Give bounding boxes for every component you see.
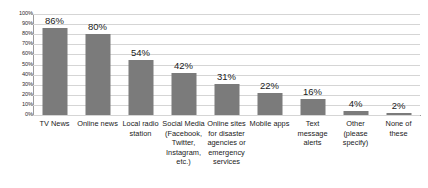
y-axis: 100%90%80%70%60%50%40%30%20%10%0%	[0, 14, 33, 115]
y-axis-tick-label: 50%	[3, 62, 33, 68]
bar-slot: 16%	[291, 14, 334, 115]
bar-value-label: 2%	[392, 101, 406, 111]
y-axis-tick-label: 70%	[3, 42, 33, 48]
x-axis-category-label: Local radio station	[119, 119, 162, 138]
x-axis-category-label: None of these	[377, 119, 420, 138]
y-axis-tick-label: 60%	[3, 52, 33, 58]
bar[interactable]	[171, 73, 196, 115]
x-axis-category-label: Online news	[76, 119, 119, 129]
bar-value-label: 80%	[88, 22, 107, 32]
bar-chart: 100%90%80%70%60%50%40%30%20%10%0% 86%80%…	[0, 0, 428, 188]
plot-area: 86%80%54%42%31%22%16%4%2%	[33, 14, 420, 115]
bar[interactable]	[300, 99, 325, 115]
bar[interactable]	[386, 113, 411, 115]
bar-slot: 80%	[76, 14, 119, 115]
bar-slot: 2%	[377, 14, 420, 115]
bars: 86%80%54%42%31%22%16%4%2%	[33, 14, 420, 115]
y-axis-tick-label: 10%	[3, 102, 33, 108]
y-axis-tick-label: 80%	[3, 31, 33, 37]
bar-slot: 4%	[334, 14, 377, 115]
x-axis-category-label: Mobile apps	[248, 119, 291, 129]
bar[interactable]	[42, 28, 67, 115]
x-axis-categories: TV NewsOnline newsLocal radio stationSoc…	[33, 119, 420, 187]
bar-slot: 22%	[248, 14, 291, 115]
bar-slot: 31%	[205, 14, 248, 115]
bar[interactable]	[128, 60, 153, 115]
bar-slot: 54%	[119, 14, 162, 115]
bar-slot: 86%	[33, 14, 76, 115]
x-axis-category-label: Online sites for disaster agencies or em…	[205, 119, 248, 167]
x-axis-line	[33, 115, 421, 116]
x-axis-category-label: TV News	[33, 119, 76, 129]
bar-value-label: 16%	[303, 87, 322, 97]
bar[interactable]	[343, 111, 368, 115]
x-axis-category-label: Text message alerts	[291, 119, 334, 148]
y-axis-tick-label: 0%	[3, 112, 33, 118]
y-axis-tick-label: 20%	[3, 92, 33, 98]
x-axis-category-label: Social Media (Facebook, Twitter, Instagr…	[162, 119, 205, 167]
y-axis-tick-label: 30%	[3, 82, 33, 88]
bar-value-label: 54%	[131, 48, 150, 58]
bar[interactable]	[257, 93, 282, 115]
bar-value-label: 86%	[45, 16, 64, 26]
bar-value-label: 4%	[349, 99, 363, 109]
y-axis-tick-label: 90%	[3, 21, 33, 27]
bar-slot: 42%	[162, 14, 205, 115]
bar-value-label: 31%	[217, 72, 236, 82]
bar[interactable]	[85, 34, 110, 115]
bar[interactable]	[214, 84, 239, 115]
bar-value-label: 22%	[260, 81, 279, 91]
bar-value-label: 42%	[174, 61, 193, 71]
y-axis-tick-label: 100%	[3, 11, 33, 17]
y-axis-tick-label: 40%	[3, 72, 33, 78]
x-axis-category-label: Other (please specify)	[334, 119, 377, 148]
